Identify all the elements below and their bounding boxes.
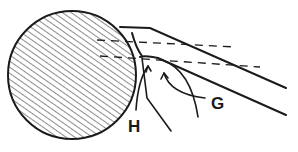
chip-curl-h [136, 58, 171, 131]
diagram-canvas [0, 0, 298, 152]
label-h: H [128, 118, 140, 135]
label-g: G [211, 95, 224, 112]
workpiece [0, 0, 298, 152]
